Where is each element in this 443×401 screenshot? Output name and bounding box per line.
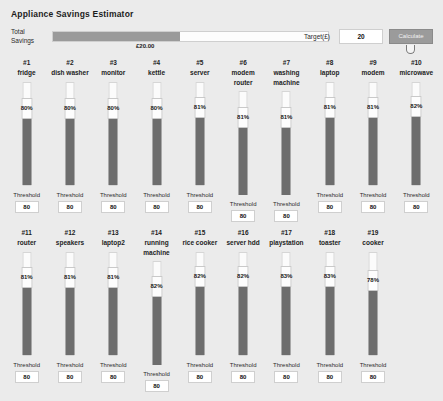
appliance-index: #7 [283, 58, 290, 67]
appliance-slider[interactable]: 80% [149, 82, 165, 186]
threshold-input[interactable] [145, 201, 169, 213]
threshold-input[interactable] [318, 201, 342, 213]
threshold-input[interactable] [404, 201, 428, 213]
appliance-column: #10microwave82%Threshold [395, 58, 438, 222]
appliance-row-1: #1fridge80%Threshold#2dish washer80%Thre… [5, 58, 438, 222]
appliance-name: laptop [320, 68, 340, 78]
appliance-slider[interactable]: 83% [278, 252, 294, 356]
appliance-index: #2 [66, 58, 73, 67]
threshold-input[interactable] [58, 201, 82, 213]
slider-percent-label: 81% [107, 274, 119, 280]
calculate-button[interactable]: Calculate [389, 29, 433, 44]
appliance-slider[interactable]: 78% [365, 252, 381, 356]
appliance-name: fridge [18, 68, 36, 78]
appliance-name: toaster [319, 238, 341, 248]
threshold-label: Threshold [360, 191, 387, 199]
appliance-name: router [17, 238, 36, 248]
slider-filled-portion [369, 116, 378, 185]
slider-percent-label: 81% [367, 104, 379, 110]
appliance-slider[interactable]: 82% [235, 252, 251, 356]
threshold-input[interactable] [274, 210, 298, 222]
appliance-slider[interactable]: 82% [192, 252, 208, 356]
appliance-slider[interactable]: 81% [62, 252, 78, 356]
threshold-input[interactable] [15, 371, 39, 383]
threshold-label: Threshold [186, 361, 213, 369]
threshold-label: Threshold [230, 361, 257, 369]
appliance-slider[interactable]: 81% [192, 82, 208, 186]
threshold-input[interactable] [101, 201, 125, 213]
slider-percent-label: 80% [107, 105, 119, 111]
appliance-name: kettle [148, 68, 165, 78]
slider-filled-portion [369, 289, 378, 356]
appliance-column: #8laptop81%Threshold [308, 58, 351, 222]
threshold-input[interactable] [58, 371, 82, 383]
appliance-slider[interactable]: 81% [322, 82, 338, 186]
threshold-input[interactable] [231, 371, 255, 383]
slider-filled-portion [152, 295, 161, 365]
threshold-label: Threshold [13, 191, 40, 199]
slider-filled-portion [109, 117, 118, 185]
threshold-label: Threshold [100, 191, 127, 199]
slider-filled-portion [22, 117, 31, 185]
appliance-name: dish washer [51, 68, 89, 78]
appliance-index: #14 [151, 228, 162, 237]
threshold-input[interactable] [231, 210, 255, 222]
slider-percent-label: 81% [64, 274, 76, 280]
target-label: Target(£) [304, 33, 330, 40]
slider-filled-portion [65, 286, 74, 355]
appliance-slider[interactable]: 83% [322, 252, 338, 356]
appliance-slider[interactable]: 81% [105, 252, 121, 356]
slider-filled-portion [239, 126, 248, 195]
appliance-slider[interactable]: 81% [278, 91, 294, 195]
threshold-input[interactable] [145, 380, 169, 392]
appliance-slider[interactable]: 80% [105, 82, 121, 186]
appliance-slider[interactable]: 82% [408, 82, 424, 186]
threshold-label: Threshold [316, 361, 343, 369]
appliance-column: #13laptop281%Threshold [92, 228, 135, 392]
appliance-index: #6 [240, 58, 247, 67]
threshold-input[interactable] [101, 371, 125, 383]
appliance-name: rice cooker [182, 238, 217, 248]
appliance-index: #12 [65, 228, 76, 237]
appliance-name: playstation [269, 238, 303, 248]
threshold-input[interactable] [318, 371, 342, 383]
threshold-label: Threshold [57, 191, 84, 199]
appliance-index: #10 [411, 58, 422, 67]
slider-filled-portion [239, 285, 248, 355]
slider-percent-label: 81% [280, 114, 292, 120]
appliance-index: #9 [369, 58, 376, 67]
appliance-slider[interactable]: 81% [235, 91, 251, 195]
appliance-slider[interactable]: 82% [149, 261, 165, 365]
appliance-slider[interactable]: 80% [62, 82, 78, 186]
slider-percent-label: 80% [64, 105, 76, 111]
threshold-label: Threshold [316, 191, 343, 199]
threshold-input[interactable] [188, 201, 212, 213]
appliance-name: speakers [56, 238, 84, 248]
appliance-slider[interactable]: 81% [19, 252, 35, 356]
page-title: Appliance Savings Estimator [11, 9, 134, 19]
appliance-slider[interactable]: 81% [365, 82, 381, 186]
threshold-input[interactable] [361, 371, 385, 383]
appliance-slider[interactable]: 80% [19, 82, 35, 186]
appliance-column: #5server81%Threshold [178, 58, 221, 222]
target-input[interactable] [339, 29, 383, 44]
appliance-index: #8 [326, 58, 333, 67]
threshold-input[interactable] [274, 371, 298, 383]
mouse-cursor-indicator [406, 45, 415, 54]
appliance-name: server hdd [227, 238, 260, 248]
threshold-input[interactable] [361, 201, 385, 213]
appliance-name: server [190, 68, 210, 78]
appliance-name: laptop2 [102, 238, 125, 248]
threshold-label: Threshold [100, 361, 127, 369]
threshold-input[interactable] [188, 371, 212, 383]
appliance-index: #16 [238, 228, 249, 237]
appliance-name: modem [361, 68, 384, 78]
slider-filled-portion [109, 286, 118, 355]
appliance-column: #9modem81%Threshold [351, 58, 394, 222]
appliance-row-2: #11router81%Threshold#12speakers81%Thres… [5, 228, 438, 392]
slider-percent-label: 82% [237, 273, 249, 279]
appliance-column: #2dish washer80%Threshold [48, 58, 91, 222]
threshold-label: Threshold [273, 200, 300, 208]
slider-filled-portion [65, 117, 74, 185]
threshold-input[interactable] [15, 201, 39, 213]
